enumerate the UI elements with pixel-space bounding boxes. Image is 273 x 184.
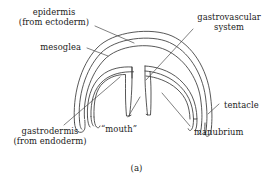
label-gastrodermis-line1: gastrodermis bbox=[6, 126, 94, 136]
bell-gastrodermis-layer bbox=[84, 46, 202, 125]
label-tentacle: tentacle bbox=[224, 100, 259, 110]
label-mesoglea: mesoglea bbox=[18, 42, 81, 52]
label-tentacle-line1: tentacle bbox=[224, 100, 259, 110]
label-mesoglea-line1: mesoglea bbox=[18, 42, 81, 52]
figure-panel: epidermis (from ectoderm) mesoglea gastr… bbox=[0, 0, 273, 184]
leader-manubrium bbox=[162, 93, 190, 126]
label-gastrovascular-line1: gastrovascular bbox=[189, 12, 269, 22]
label-manubrium: manubrium bbox=[194, 127, 244, 137]
leader-mouth bbox=[128, 97, 140, 117]
label-gastrodermis: gastrodermis (from endoderm) bbox=[6, 126, 94, 147]
leader-tentacle bbox=[208, 104, 219, 114]
label-gastrodermis-line2: (from endoderm) bbox=[6, 136, 94, 146]
label-mouth: “mouth” bbox=[101, 124, 137, 134]
figure-caption: (a) bbox=[0, 163, 273, 173]
label-gastrovascular-system: gastrovascular system bbox=[189, 12, 269, 33]
label-manubrium-line1: manubrium bbox=[194, 127, 244, 137]
mouth-opening bbox=[130, 114, 148, 116]
label-epidermis: epidermis (from ectoderm) bbox=[12, 7, 96, 28]
label-mouth-line1: “mouth” bbox=[101, 124, 137, 134]
right-manubrium-gastrovascular bbox=[145, 66, 212, 136]
bell-mesoglea-layer bbox=[79, 38, 207, 126]
label-epidermis-line2: (from ectoderm) bbox=[12, 17, 96, 27]
leader-gastrodermis bbox=[64, 77, 120, 125]
label-gastrovascular-line2: system bbox=[189, 22, 269, 32]
leader-epidermis bbox=[95, 26, 134, 43]
left-manubrium-gastrovascular bbox=[75, 67, 134, 132]
label-epidermis-line1: epidermis bbox=[12, 7, 96, 17]
